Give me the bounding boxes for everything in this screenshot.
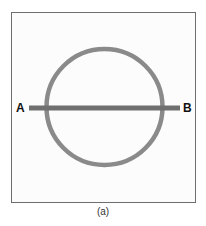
label-b: B [183,101,192,115]
diagram-canvas [0,0,206,226]
figure-caption: (a) [0,206,206,217]
label-a: A [16,101,25,115]
